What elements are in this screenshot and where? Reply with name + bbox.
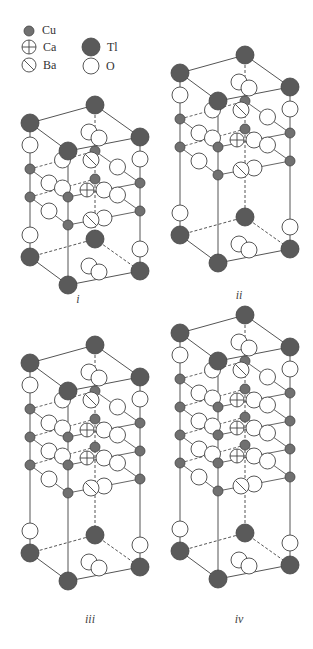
o-atom	[91, 130, 107, 146]
o-atom	[260, 137, 276, 153]
cu-atom	[285, 128, 295, 138]
cu-atom	[213, 486, 223, 496]
tl-atom	[131, 262, 149, 280]
o-atom	[22, 137, 38, 153]
o-atom	[41, 471, 57, 487]
ba-atom	[83, 480, 99, 496]
tl-atom	[171, 226, 189, 244]
ca-atom	[80, 451, 94, 465]
tl-atom	[281, 78, 299, 96]
o-atom	[241, 340, 257, 356]
cu-atom	[285, 472, 295, 482]
legend: Cu Ca Tl Ba O	[0, 0, 160, 85]
structure-iv	[150, 300, 310, 591]
o-atom	[260, 425, 276, 441]
tl-atom	[21, 354, 39, 372]
tl-atom	[236, 208, 254, 226]
cu-atom	[240, 440, 250, 450]
legend-label-cu: Cu	[42, 23, 56, 38]
cu-atom	[285, 388, 295, 398]
tl-atom	[21, 114, 39, 132]
ba-atom	[233, 362, 249, 378]
ca-atom	[80, 183, 94, 197]
o-atom	[91, 264, 107, 280]
tl-atom	[86, 526, 104, 544]
tl-atom	[21, 248, 39, 266]
o-atom	[110, 427, 126, 443]
ba-atom	[83, 392, 99, 408]
tl-atom	[281, 556, 299, 574]
tl-atom	[171, 324, 189, 342]
o-atom	[22, 227, 38, 243]
cu-atom	[175, 142, 185, 152]
cu-atom	[63, 488, 73, 498]
ca-atom	[80, 423, 94, 437]
cu-atom	[175, 458, 185, 468]
legend-label-ca: Ca	[43, 40, 56, 55]
cu-atom	[25, 192, 35, 202]
tl-atom	[171, 64, 189, 82]
o-atom	[172, 347, 188, 363]
cu-atom	[285, 416, 295, 426]
tl-atom	[131, 558, 149, 576]
tl-atom	[59, 572, 77, 590]
tl-atom	[86, 96, 104, 114]
cu-atom	[90, 442, 100, 452]
o-atom	[132, 241, 148, 257]
cu-atom	[25, 404, 35, 414]
cu-atom	[240, 412, 250, 422]
tl-atom	[236, 46, 254, 64]
o-atom	[282, 535, 298, 551]
o-atom	[172, 205, 188, 221]
o-atom	[241, 242, 257, 258]
legend-label-ba: Ba	[43, 58, 56, 73]
ba-atom-icon	[21, 57, 37, 73]
o-atom	[260, 397, 276, 413]
caption-iv: iv	[219, 612, 259, 627]
structure-i	[0, 90, 160, 297]
legend-item-ca: Ca	[21, 39, 56, 55]
o-atom	[132, 391, 148, 407]
o-atom	[241, 558, 257, 574]
tl-atom	[209, 92, 227, 110]
tl-atom	[59, 142, 77, 160]
cu-atom	[135, 418, 145, 428]
o-atom	[132, 151, 148, 167]
o-atom	[91, 560, 107, 576]
o-atom	[241, 80, 257, 96]
o-atom	[282, 101, 298, 117]
o-atom	[260, 453, 276, 469]
cu-atom	[213, 402, 223, 412]
crystal-structure-i	[0, 90, 160, 297]
ca-atom	[230, 449, 244, 463]
structure-ii	[150, 40, 310, 275]
o-atom	[260, 369, 276, 385]
tl-atom	[281, 240, 299, 258]
cu-atom	[240, 124, 250, 134]
legend-item-o: O	[82, 57, 115, 75]
legend-item-tl: Tl	[81, 37, 118, 57]
o-atom	[282, 361, 298, 377]
cu-atom	[213, 142, 223, 152]
ca-atom-icon	[21, 39, 37, 55]
tl-atom	[59, 382, 77, 400]
cu-atom	[63, 192, 73, 202]
cu-atom	[90, 174, 100, 184]
o-atom	[22, 377, 38, 393]
cu-atom	[213, 430, 223, 440]
o-atom	[191, 469, 207, 485]
ba-atom	[83, 212, 99, 228]
crystal-structure-iv	[150, 300, 310, 591]
structure-iii	[0, 330, 160, 593]
ca-atom	[230, 393, 244, 407]
legend-item-cu: Cu	[22, 23, 56, 38]
o-atom	[41, 203, 57, 219]
ca-atom	[230, 421, 244, 435]
legend-label-tl: Tl	[107, 40, 118, 55]
cu-atom-icon	[22, 24, 36, 38]
o-atom	[172, 521, 188, 537]
tl-atom	[131, 128, 149, 146]
cu-atom	[25, 432, 35, 442]
caption-iii: iii	[70, 612, 110, 627]
cu-atom	[63, 220, 73, 230]
